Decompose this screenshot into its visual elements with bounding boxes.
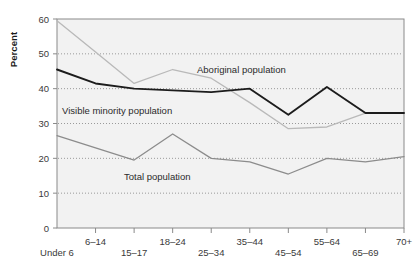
x-axis-labels: Under 66–1415–1718–2425–3435–4445–5455–6… [40,236,412,258]
y-tick-label: 40 [38,83,49,94]
series-annotation: Aboriginal population [197,64,286,75]
y-tick-label: 10 [38,188,49,199]
chart-container: Percent 0102030405060 Aboriginal populat… [0,0,420,273]
x-tick-label: 25–34 [198,247,224,258]
x-tick-label: 70+ [396,236,413,247]
line-chart: 0102030405060 Aboriginal populationVisib… [0,0,420,273]
y-tick-label: 50 [38,48,49,59]
x-tick-label: 45–54 [275,247,301,258]
y-tick-label: 0 [44,223,49,234]
x-tick-label: Under 6 [40,247,74,258]
x-tick-label: 15–17 [121,247,147,258]
x-tick-label: 65–69 [352,247,378,258]
x-tick-label: 35–44 [237,236,263,247]
y-tick-label: 20 [38,153,49,164]
x-tick-label: 6–14 [85,236,106,247]
x-tick-label: 55–64 [314,236,340,247]
y-axis: 0102030405060 [38,14,57,234]
series-annotation: Total population [124,171,191,182]
y-axis-title: Percent [8,15,19,85]
x-tick-label: 18–24 [159,236,185,247]
y-tick-label: 30 [38,118,49,129]
y-tick-label: 60 [38,14,49,25]
x-axis [96,228,404,233]
series-annotation: Visible minority population [62,105,172,116]
